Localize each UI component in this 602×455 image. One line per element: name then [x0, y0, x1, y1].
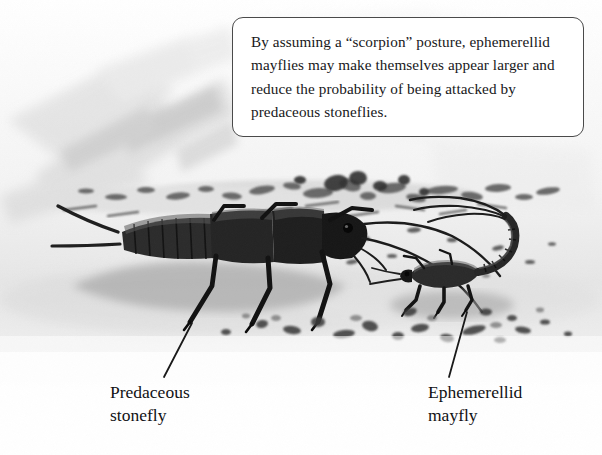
figure-illustration: By assuming a “scorpion” posture, epheme…: [0, 0, 602, 455]
label-ephemerellid-mayfly: Ephemerellid mayfly: [428, 381, 522, 427]
callout-text: By assuming a “scorpion” posture, epheme…: [251, 30, 567, 124]
label-predaceous-stonefly: Predaceous stonefly: [110, 381, 190, 427]
callout-box: By assuming a “scorpion” posture, epheme…: [232, 17, 584, 137]
